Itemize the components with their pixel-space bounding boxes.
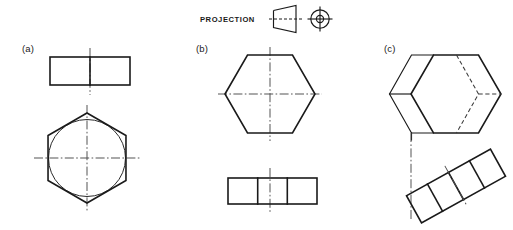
view-c-hidden-edges [457,55,502,133]
drawing-sheet: PROJECTION (a) [0,0,513,230]
view-c-label: (c) [384,43,396,54]
view-c-hexagonal-prism-pictorial [390,55,502,140]
drawing-canvas: PROJECTION (a) [0,0,513,230]
view-a-group: (a) [22,43,141,212]
view-a-hexagon-with-circle [34,105,141,212]
view-b-hexagon-flat-top [218,47,322,141]
concentric-circles-icon [308,7,333,32]
projection-symbol-group: PROJECTION [200,6,333,33]
view-c-tilted-rectangle-four-cells [403,143,509,230]
view-b-label: (b) [196,43,208,54]
view-a-label: (a) [22,43,34,54]
view-b-rectangle-three-cells [228,168,317,214]
view-c-group: (c) [384,43,509,229]
projection-label: PROJECTION [200,15,255,24]
view-b-group: (b) [196,43,322,214]
truncated-cone-icon [269,6,303,33]
view-a-rectangle-two-cells [50,48,130,95]
